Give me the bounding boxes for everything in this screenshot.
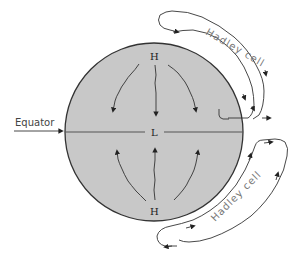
north-hadley-cell-label: Hadley cell: [204, 26, 267, 69]
south-high-label: H: [150, 206, 159, 217]
hadley-cell-diagram: Equator H L H Hadley cell Had: [0, 0, 302, 261]
equatorial-low-label: L: [151, 127, 158, 138]
equator-label: Equator: [15, 117, 55, 128]
north-high-label: H: [150, 51, 159, 62]
